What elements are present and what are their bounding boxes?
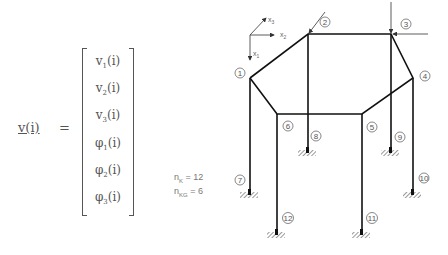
node-3-label: 3 (404, 20, 409, 29)
node-5-label: 5 (370, 123, 375, 132)
support-8-icon (298, 147, 316, 156)
node-10-label: 10 (420, 174, 429, 183)
support-7-icon (240, 189, 258, 198)
frame-members (250, 34, 413, 232)
node-2-label: 2 (323, 18, 328, 27)
support-12-icon (267, 229, 285, 238)
node-6-label: 6 (286, 122, 291, 131)
axis-x3-label: x3 (268, 16, 275, 25)
node-7-label: 7 (238, 176, 243, 185)
node-9-label: 9 (398, 133, 403, 142)
axis-x1-label: x1 (253, 50, 260, 59)
node-labels (235, 17, 430, 224)
node-11-label: 11 (368, 214, 377, 223)
axis-x2-label: x2 (280, 31, 287, 40)
node-8-label: 8 (314, 132, 319, 141)
support-10-icon (403, 189, 421, 198)
support-11-icon (352, 229, 370, 238)
node-4-label: 4 (423, 72, 428, 81)
node-12-label: 12 (284, 214, 293, 223)
fixed-supports (240, 147, 421, 238)
frame-structure-diagram: x3 x2 x1 (0, 0, 448, 255)
node-1-label: 1 (238, 69, 243, 78)
support-9-icon (381, 147, 399, 156)
